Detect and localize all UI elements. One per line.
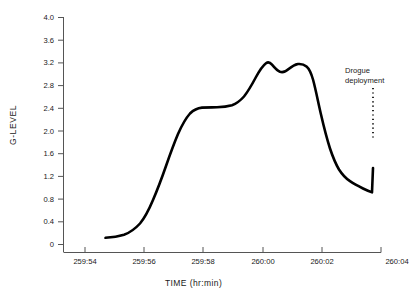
y-tick-label-0-8: 0.8 [28, 195, 54, 204]
x-tick-marks [85, 247, 381, 253]
annotation-line-1: Drogue [345, 66, 384, 76]
y-tick-label-0-4: 0.4 [28, 217, 54, 226]
x-tick-label-259-58: 259:58 [183, 257, 223, 266]
x-tick-label-259-54: 259:54 [65, 257, 105, 266]
x-axis-title: TIME (hr:min) [165, 278, 222, 288]
y-tick-label-2-8: 2.8 [28, 81, 54, 90]
y-axis-title: G-LEVEL [8, 95, 18, 155]
y-tick-label-1-2: 1.2 [28, 172, 54, 181]
chart-canvas [0, 0, 419, 296]
drogue-deployment-annotation: Drogue deployment [345, 66, 384, 85]
y-tick-label-3-2: 3.2 [28, 58, 54, 67]
y-tick-label-1-6: 1.6 [28, 149, 54, 158]
annotation-line-2: deployment [345, 76, 384, 86]
y-tick-label-4-0: 4.0 [28, 13, 54, 22]
g-level-time-chart: 4.0 3.6 3.2 2.8 2.4 2.0 1.6 1.2 0.8 0.4 … [0, 0, 419, 296]
y-tick-label-3-6: 3.6 [28, 36, 54, 45]
x-tick-label-260-00: 260:00 [243, 257, 283, 266]
y-tick-label-2-4: 2.4 [28, 104, 54, 113]
y-tick-label-0: 0 [28, 240, 54, 249]
x-tick-label-259-56: 259:56 [124, 257, 164, 266]
x-tick-label-260-04: 260:04 [377, 257, 417, 266]
x-tick-label-260-02: 260:02 [302, 257, 342, 266]
y-tick-label-2-0: 2.0 [28, 127, 54, 136]
y-tick-marks [58, 18, 64, 245]
g-level-curve [106, 62, 374, 237]
